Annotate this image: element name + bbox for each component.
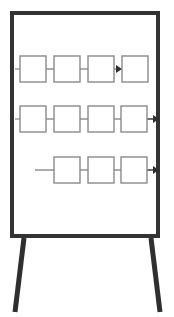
row-2-node-3[interactable] xyxy=(88,106,114,132)
row-1-node-3[interactable] xyxy=(88,56,114,82)
easel-legs xyxy=(15,238,160,312)
row-2-node-2[interactable] xyxy=(54,106,80,132)
row-2-node-4[interactable] xyxy=(121,106,147,132)
row-1-node-2[interactable] xyxy=(54,56,80,82)
flipchart-scene xyxy=(0,0,174,317)
flipchart-svg xyxy=(0,0,174,317)
row-3-node-2[interactable] xyxy=(88,157,114,183)
row-1-node-1[interactable] xyxy=(20,56,46,82)
row-3-node-3[interactable] xyxy=(121,157,147,183)
row-3 xyxy=(35,157,159,183)
right-leg xyxy=(151,238,160,312)
row-1-node-4[interactable] xyxy=(122,56,148,82)
left-leg xyxy=(15,238,24,312)
row-3-node-1[interactable] xyxy=(54,157,80,183)
row-2-node-1[interactable] xyxy=(20,106,46,132)
